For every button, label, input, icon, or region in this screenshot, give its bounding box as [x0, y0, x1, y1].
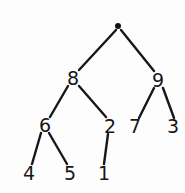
tree-node-6: 6	[39, 116, 51, 135]
tree-node-2: 2	[104, 117, 116, 136]
edge-9-to-3	[163, 88, 174, 118]
edge-2-to-1	[104, 134, 108, 164]
tree-node-9: 9	[152, 71, 164, 90]
edge-9-to-7	[139, 88, 154, 118]
tree-node-7: 7	[129, 117, 141, 136]
edge-root-to-8	[79, 30, 116, 70]
edge-6-to-4	[32, 133, 41, 164]
edge-root-to-9	[121, 30, 154, 71]
tree-node-5: 5	[64, 164, 76, 183]
tree-node-3: 3	[167, 117, 179, 136]
tree-node-1: 1	[98, 164, 110, 183]
edge-8-to-6	[50, 86, 68, 117]
binary-tree-diagram: 8 9 6 2 7 3 4 5 1	[0, 0, 185, 193]
tree-node-8: 8	[67, 69, 79, 88]
root-dot-icon	[115, 23, 121, 29]
tree-node-4: 4	[23, 164, 35, 183]
edge-6-to-5	[49, 133, 67, 164]
edge-8-to-2	[79, 86, 106, 117]
